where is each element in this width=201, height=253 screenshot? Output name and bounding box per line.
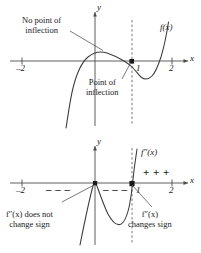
annotation-point-of-inflection: Point of inflection [86,78,119,97]
annotation-does-not-change-sign-line2: change sign [6,220,53,230]
bottom-curve-fpp [80,149,137,245]
top-leader-inflection [122,64,130,79]
bottom-tick-label-minus2: –2 [16,185,25,195]
sign-pluses-right: + + + [143,166,170,178]
annotation-no-inflection: No point of inflection [22,16,61,35]
top-tick-label-minus2: –2 [16,63,25,73]
bottom-tick-label-one: 1 [136,185,141,195]
sign-dashes-left: – – – [46,183,71,195]
top-y-axis-arrow [93,12,97,17]
top-x-axis-label: x [190,53,194,63]
bottom-x-axis-label: x [190,175,194,185]
sign-dashes-mid: – – – [103,183,128,195]
annotation-does-not-change-sign: f″(x) does not change sign [6,210,53,229]
bottom-leader-change [132,185,152,207]
top-tick-label-one: 1 [136,63,141,73]
bottom-y-axis-arrow [93,146,97,151]
top-curve-label-fx: f(x) [160,22,173,32]
top-tick-label-two: 2 [169,63,174,73]
top-inflection-dot [129,59,134,64]
top-leader-no-inflection [70,31,103,51]
annotation-no-inflection-line2: inflection [22,26,61,36]
annotation-changes-sign-line2: changes sign [128,220,172,230]
inflection-point-figure: y x –2 1 2 f(x) No point of inflection P… [0,0,201,253]
bottom-curve-label-fpp: f″(x) [141,147,157,157]
annotation-point-of-inflection-line2: inflection [86,88,119,98]
top-y-axis-label: y [97,2,101,12]
bottom-x-axis-arrow [184,181,189,185]
top-x-axis-arrow [184,59,189,63]
bottom-y-axis-label: y [97,136,101,146]
bottom-tick-label-two: 2 [169,185,174,195]
annotation-changes-sign: f″(x) changes sign [128,210,172,229]
bottom-touch-zero-dot [93,181,97,185]
bottom-panel-group [10,146,188,245]
